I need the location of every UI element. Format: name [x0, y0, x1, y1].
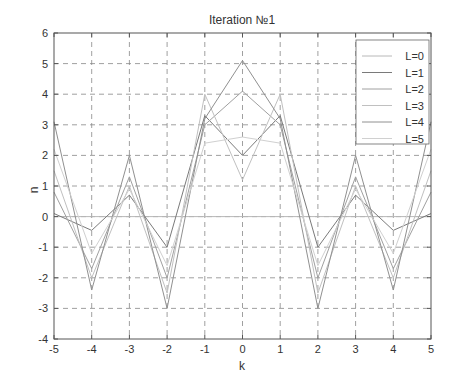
y-tick-label: 2	[42, 149, 48, 161]
y-tick-label: 1	[42, 180, 48, 192]
y-tick-label: 5	[42, 58, 48, 70]
legend-label: L=2	[405, 83, 424, 95]
legend-label: L=4	[405, 116, 424, 128]
legend-label: L=3	[405, 100, 424, 112]
chart-title: Iteration №1	[209, 13, 276, 27]
y-tick-label: 6	[42, 27, 48, 39]
x-tick-label: -4	[87, 343, 97, 355]
y-tick-label: 3	[42, 119, 48, 131]
y-tick-label: -2	[38, 272, 48, 284]
x-axis-label: k	[239, 359, 246, 373]
legend: L=0L=1L=2L=3L=4L=5	[356, 40, 429, 145]
x-tick-label: 3	[353, 343, 359, 355]
y-tick-label: -1	[38, 241, 48, 253]
x-tick-label: 4	[390, 343, 396, 355]
x-tick-label: -2	[162, 343, 172, 355]
x-tick-label: 2	[315, 343, 321, 355]
x-tick-label: 5	[428, 343, 434, 355]
legend-label: L=1	[405, 67, 424, 79]
y-tick-label: 0	[42, 211, 48, 223]
y-tick-label: -4	[38, 333, 48, 345]
x-tick-label: 1	[277, 343, 283, 355]
x-tick-label: -5	[49, 343, 59, 355]
legend-label: L=5	[405, 133, 424, 145]
x-tick-label: -1	[200, 343, 210, 355]
legend-label: L=0	[405, 50, 424, 62]
line-chart: -5-4-3-2-1012345 -4-3-2-10123456 Iterati…	[0, 0, 453, 378]
x-tick-label: -3	[125, 343, 135, 355]
y-tick-label: 4	[42, 88, 48, 100]
x-tick-label: 0	[239, 343, 245, 355]
y-tick-label: -3	[38, 302, 48, 314]
y-axis-label: n	[27, 187, 41, 194]
